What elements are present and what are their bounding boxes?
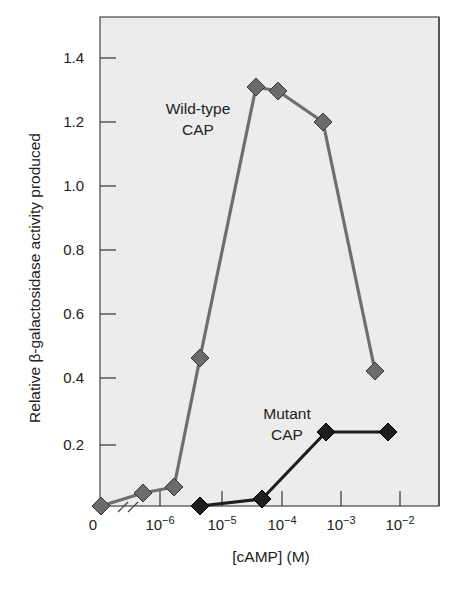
x-tick-0: 0: [89, 516, 97, 533]
y-tick-0.4: 0.4: [63, 369, 84, 386]
x-tick-1e-4: 10−4: [267, 514, 296, 533]
x-axis-title: [cAMP] (M): [232, 548, 310, 565]
y-tick-0.2: 0.2: [63, 436, 84, 453]
x-tick-labels: 0 10−6 10−5 10−4 10−3 10−2: [89, 514, 415, 533]
chart: 0.2 0.4 0.6 0.8 1.0 1.2 1.4 0 10−6 10−5 …: [0, 0, 467, 596]
y-axis-title: Relative β-galactosidase activity produc…: [26, 133, 43, 423]
mutant-label-line2: CAP: [271, 426, 303, 443]
wild-type-label-line1: Wild-type: [166, 100, 231, 117]
y-tick-0.6: 0.6: [63, 305, 84, 322]
x-tick-1e-3: 10−3: [326, 514, 355, 533]
y-tick-1.0: 1.0: [63, 177, 84, 194]
x-tick-1e-5: 10−5: [207, 514, 236, 533]
mutant-label-line1: Mutant: [263, 405, 311, 422]
y-tick-0.8: 0.8: [63, 241, 84, 258]
wild-type-label-line2: CAP: [182, 121, 214, 138]
y-tick-labels: 0.2 0.4 0.6 0.8 1.0 1.2 1.4: [63, 49, 84, 453]
x-tick-1e-6: 10−6: [145, 514, 174, 533]
x-tick-1e-2: 10−2: [385, 514, 414, 533]
y-tick-1.2: 1.2: [63, 113, 84, 130]
y-tick-1.4: 1.4: [63, 49, 84, 66]
